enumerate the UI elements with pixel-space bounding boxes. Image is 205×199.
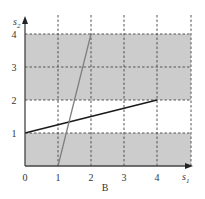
y-axis-arrow-icon <box>22 16 28 24</box>
y-tick-label: 2 <box>12 95 17 106</box>
shaded-band <box>25 133 191 166</box>
x-axis-label: s1 <box>182 171 189 185</box>
x-tick-label: 1 <box>56 172 61 183</box>
chart: 012341234 s2 s1 B <box>0 0 205 199</box>
x-tick-label: 2 <box>89 172 94 183</box>
y-tick-label: 3 <box>12 62 17 73</box>
x-tick-label: 0 <box>23 172 28 183</box>
y-tick-label: 4 <box>12 29 17 40</box>
chart-caption: B <box>102 182 109 193</box>
y-tick-label: 1 <box>12 128 17 139</box>
x-tick-label: 4 <box>155 172 160 183</box>
x-tick-label: 3 <box>122 172 127 183</box>
